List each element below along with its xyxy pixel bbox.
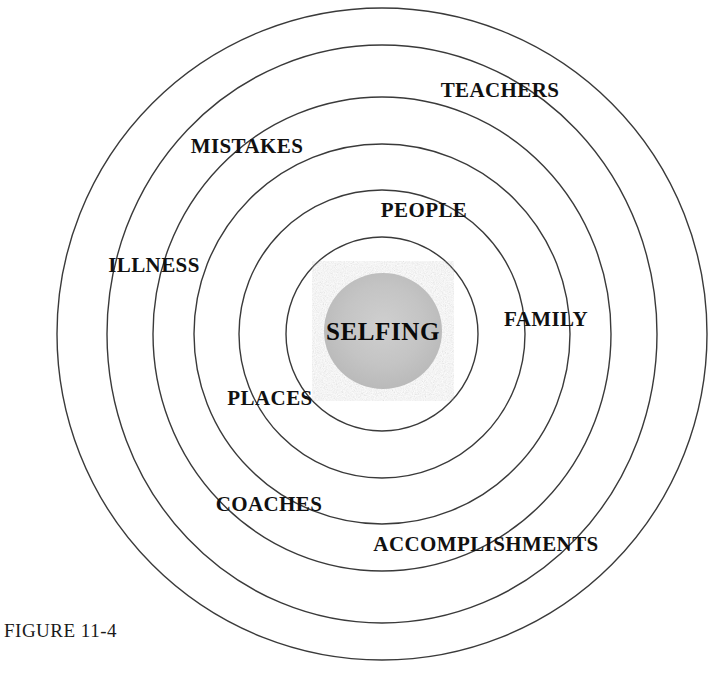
figure-caption: FIGURE 11-4 <box>4 620 117 642</box>
ring-label-teachers: TEACHERS <box>441 80 560 101</box>
ring-label-places: PLACES <box>227 388 312 409</box>
ring-label-accomplishments: ACCOMPLISHMENTS <box>373 534 598 555</box>
ring-label-family: FAMILY <box>504 309 588 330</box>
ring-label-mistakes: MISTAKES <box>191 136 304 157</box>
ring-label-illness: ILLNESS <box>108 255 200 276</box>
ring-label-coaches: COACHES <box>216 494 323 515</box>
ring-label-people: PEOPLE <box>381 200 467 221</box>
core-label-selfing: SELFING <box>326 319 440 344</box>
